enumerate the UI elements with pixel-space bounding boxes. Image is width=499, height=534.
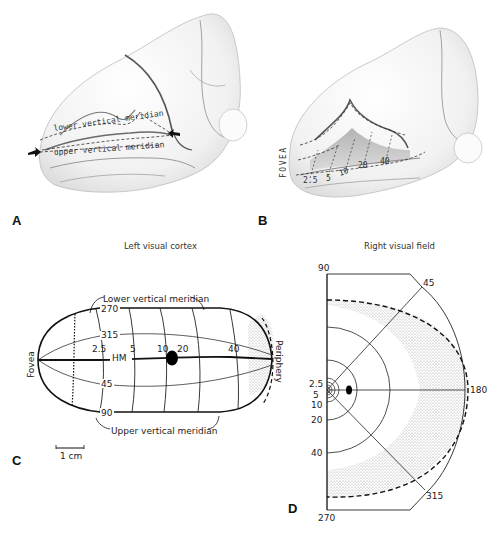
c-angle-45: 45	[101, 379, 112, 389]
d-scotoma-dot	[346, 386, 352, 395]
c-angle-315: 315	[101, 330, 118, 340]
c-ecc-40: 40	[228, 344, 240, 354]
panel-label-c: C	[12, 453, 22, 468]
panel-d-field	[327, 274, 468, 510]
b-ecc-2-5: 2.5	[303, 176, 318, 185]
panel-label-a: A	[12, 213, 22, 228]
panel-label-d: D	[288, 501, 297, 516]
b-ecc-20: 20	[358, 161, 368, 170]
c-angle-90: 90	[101, 408, 113, 418]
arrow-left-icon	[28, 147, 41, 157]
b-ecc-40: 40	[380, 157, 390, 166]
c-lower-meridian-label: Lower vertical meridian	[103, 294, 209, 304]
d-angle-90: 90	[318, 263, 330, 273]
d-ecc-2-5: 2.5	[309, 379, 323, 389]
d-ecc-10: 10	[311, 400, 323, 410]
d-ecc-40: 40	[311, 448, 323, 458]
c-ecc-2-5: 2.5	[92, 344, 106, 354]
b-fovea-label: FOVEA	[279, 146, 288, 178]
d-angle-45: 45	[423, 278, 434, 288]
d-angle-180: 180	[470, 385, 487, 395]
d-angle-270: 270	[318, 513, 335, 523]
c-scale-label: 1 cm	[60, 451, 82, 461]
c-hm-label: HM	[112, 353, 127, 363]
c-ecc-20: 20	[177, 344, 189, 354]
d-ecc-20: 20	[311, 415, 323, 425]
b-ecc-5: 5	[326, 174, 331, 183]
panel-b-brain: 2.5 5 10 20 40 FOVEA	[279, 28, 482, 197]
c-upper-meridian-label: Upper vertical meridian	[111, 426, 217, 436]
panel-label-b: B	[258, 213, 267, 228]
c-ecc-10: 10	[157, 344, 169, 354]
d-title: Right visual field	[364, 241, 435, 251]
panel-a-brain: lower vertical meridian upper vertical m…	[28, 14, 247, 192]
d-angle-315: 315	[426, 491, 443, 501]
c-angle-270: 270	[101, 304, 118, 314]
panel-c-map	[38, 297, 274, 429]
c-fovea-label: Fovea	[26, 351, 36, 378]
c-periphery-label: Periphery	[274, 340, 284, 383]
c-title: Left visual cortex	[124, 241, 197, 251]
figure-canvas: lower vertical meridian upper vertical m…	[0, 0, 499, 534]
c-ecc-5: 5	[130, 344, 136, 354]
d-ecc-5: 5	[313, 390, 319, 400]
